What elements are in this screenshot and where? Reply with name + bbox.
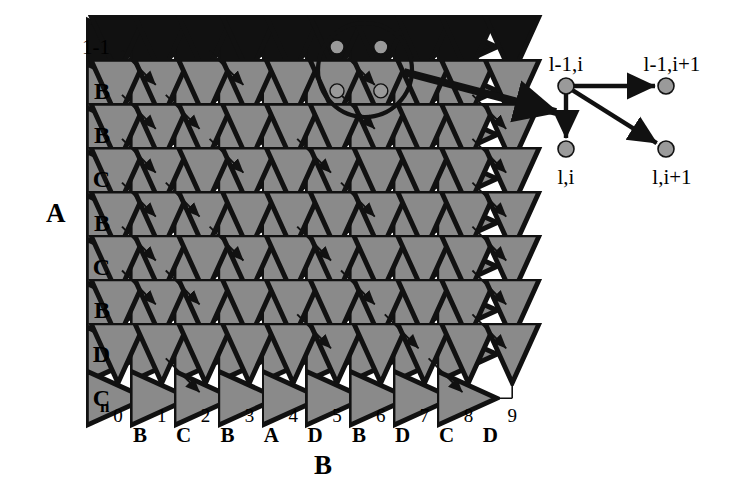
axis-b-letter-label: D (302, 425, 328, 446)
axis-a-tick-label: 1-1 (58, 37, 110, 58)
axis-a-tick-label: C (70, 167, 110, 191)
diagonal-arrow-group (122, 51, 506, 392)
diagonal-arrow (472, 183, 506, 217)
inset-node-label: l-1,i (522, 54, 610, 75)
diagonal-arrow (472, 227, 506, 261)
axis-a-tick-label: B (70, 123, 110, 147)
axis-b-letter-label: D (477, 425, 503, 446)
axis-b-number-label: 1 (149, 406, 175, 425)
axis-b-letter-label: D (390, 425, 416, 446)
axis-b-letter-label: C (434, 425, 460, 446)
axis-b-number-label: 7 (412, 406, 438, 425)
axis-b-letter-label: C (171, 425, 197, 446)
corner-subscript-n: n (100, 398, 109, 415)
axis-b-letter-label: B (127, 425, 153, 446)
highlight-circle (318, 23, 412, 117)
diagonal-arrow (166, 183, 200, 217)
axis-b-number-label: 6 (368, 406, 394, 425)
axis-a-tick-label: B (70, 211, 110, 235)
axis-b-letter-label: B (346, 425, 372, 446)
highlighted-node (374, 84, 388, 98)
inset-node (658, 141, 674, 157)
inset-node (658, 78, 674, 94)
axis-a-tick-label: B (70, 79, 110, 103)
inset-node (558, 78, 574, 94)
axis-b-title: B (314, 452, 332, 479)
diagonal-arrow (166, 271, 200, 305)
diagonal-arrow (297, 227, 331, 261)
axis-b-number-label: 3 (236, 406, 262, 425)
diagonal-arrow (385, 314, 419, 348)
diagonal-arrow (122, 227, 156, 261)
inset-node-label: l,i (522, 167, 610, 188)
diagonal-arrow (297, 139, 331, 173)
pointer-arrow-line (404, 72, 556, 112)
figure-canvas: 1-1BBCBCBDC 0123456789 BCBADBDCD l-1,il-… (0, 0, 732, 493)
axis-b-letter-label: B (215, 425, 241, 446)
diagonal-arrow (472, 139, 506, 173)
diagonal-arrow (472, 314, 506, 348)
axis-a-title: A (46, 200, 66, 227)
axis-b-number-label: 8 (455, 406, 481, 425)
diagonal-arrow (210, 139, 244, 173)
diagonal-arrow (429, 358, 463, 392)
diagonal-arrow (341, 183, 375, 217)
axis-a-tick-label: C (70, 255, 110, 279)
inset-node-label: l,i+1 (628, 167, 716, 188)
diagonal-arrow (341, 271, 375, 305)
diagonal-arrow (210, 51, 244, 85)
diagonal-arrow (210, 227, 244, 261)
diagonal-arrow (472, 271, 506, 305)
axis-b-number-label: 4 (280, 406, 306, 425)
diagonal-arrow (341, 51, 375, 85)
callout-pointer-arrow (404, 72, 556, 112)
inset-node-label: l-1,i+1 (628, 54, 716, 75)
highlighted-node (330, 84, 344, 98)
diagonal-arrow (166, 358, 200, 392)
lattice-gridlines (118, 47, 512, 398)
axis-a-tick-label: B (70, 298, 110, 322)
diagonal-arrow (122, 51, 156, 85)
inset-node (558, 141, 574, 157)
diagonal-arrow (166, 95, 200, 129)
highlighted-node (330, 40, 344, 54)
highlight-group (318, 23, 412, 117)
diagonal-arrow (122, 95, 156, 129)
diagonal-arrow (122, 183, 156, 217)
axis-a-tick-label: D (70, 342, 110, 366)
axis-b-letter-label: A (258, 425, 284, 446)
diagonal-arrow (297, 314, 331, 348)
inset-detail-diagram (558, 78, 674, 157)
axis-b-number-label: 9 (499, 406, 525, 425)
diagonal-arrow (122, 139, 156, 173)
highlighted-node (374, 40, 388, 54)
inset-edge (573, 90, 657, 143)
axis-b-number-label: 2 (193, 406, 219, 425)
axis-b-number-label: 5 (324, 406, 350, 425)
diagonal-arrow (122, 271, 156, 305)
